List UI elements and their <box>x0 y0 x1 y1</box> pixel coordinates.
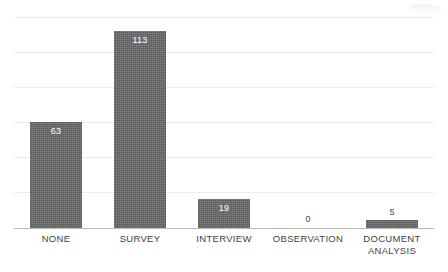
bar-value-none: 63 <box>51 126 61 136</box>
bar-value-observation: 0 <box>305 214 310 224</box>
bar-slot-interview: 19 <box>182 14 266 228</box>
x-axis-labels: NONE SURVEY INTERVIEW OBSERVATION DOCUME… <box>14 233 434 271</box>
x-label-document-analysis: DOCUMENT ANALYSIS <box>342 233 442 257</box>
bar-document-analysis[interactable] <box>366 220 418 228</box>
bar-none[interactable] <box>30 122 82 228</box>
bar-chart: 63 113 19 0 5 NONE SURVEY INTERVIEW <box>0 0 448 272</box>
x-axis-line <box>14 228 434 229</box>
bar-value-document-analysis: 5 <box>389 207 394 217</box>
bar-slot-none: 63 <box>14 14 98 228</box>
x-label-document-analysis-line1: DOCUMENT <box>342 233 442 245</box>
bar-slot-document-analysis: 5 <box>350 14 434 228</box>
bar-slot-survey: 113 <box>98 14 182 228</box>
bar-series: 63 113 19 0 5 <box>14 14 434 228</box>
bar-survey[interactable] <box>114 31 166 228</box>
x-label-document-analysis-line2: ANALYSIS <box>342 245 442 257</box>
bar-value-interview: 19 <box>219 203 229 213</box>
bar-slot-observation: 0 <box>266 14 350 228</box>
bar-value-survey: 113 <box>133 35 148 45</box>
